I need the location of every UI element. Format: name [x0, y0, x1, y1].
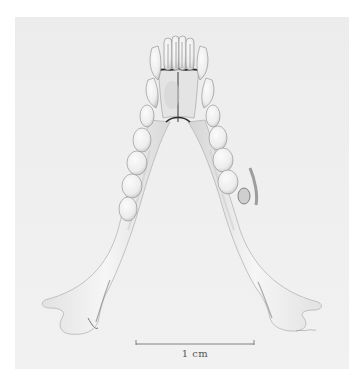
incisors [164, 36, 194, 70]
mandible-symphysis [158, 68, 199, 122]
mandible-illustration [0, 0, 360, 385]
right-mandible-branch [188, 120, 321, 331]
scale-bar [136, 340, 254, 345]
left-mandible-branch [42, 120, 170, 334]
scale-bar-label: 1 cm [175, 348, 215, 359]
